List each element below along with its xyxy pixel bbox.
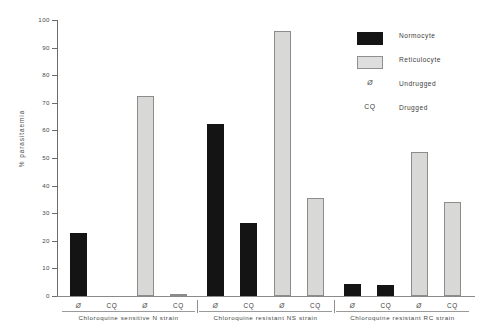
group-rule: [199, 311, 332, 312]
bar-reticulocyte-drugged: [444, 202, 461, 296]
y-tick-label: 90: [26, 45, 50, 51]
legend-swatch-normocyte: [357, 32, 383, 45]
y-tick-label: 100: [26, 17, 50, 23]
y-axis-title: % parasitaemia: [18, 94, 25, 184]
legend-item: Reticulocyte: [357, 54, 477, 78]
x-tick-label-drugged: CQ: [295, 302, 335, 309]
y-tick-label: 60: [26, 127, 50, 133]
x-axis-baseline: [57, 296, 475, 297]
group-label: Chloroquine sensitive N strain: [62, 314, 195, 321]
bar-normocyte-undrugged: [344, 284, 361, 296]
group-label: Chloroquine resistant RC strain: [336, 314, 469, 321]
bar-reticulocyte-drugged: [307, 198, 324, 296]
legend: NormocyteReticulocyteØUndruggedCQDrugged: [357, 30, 477, 126]
bar-normocyte-undrugged: [70, 233, 87, 296]
bar-reticulocyte-undrugged: [274, 31, 291, 296]
y-tick-label: 70: [26, 100, 50, 106]
y-tick-label: 50: [26, 155, 50, 161]
bar-normocyte-drugged: [240, 223, 257, 296]
bar-chart: % parasitaemia 0102030405060708090100 ØC…: [0, 0, 482, 331]
legend-swatch-reticulocyte: [357, 56, 383, 69]
group-separator: [197, 300, 198, 313]
bar-normocyte-undrugged: [207, 124, 224, 297]
group-rule: [336, 311, 469, 312]
group-separator: [334, 300, 335, 313]
x-tick-label-drugged: CQ: [158, 302, 198, 309]
y-tick-label: 20: [26, 238, 50, 244]
legend-label: Drugged: [399, 104, 428, 111]
legend-label: Undrugged: [399, 80, 436, 87]
y-tick-label: 30: [26, 210, 50, 216]
bar-reticulocyte-undrugged: [137, 96, 154, 296]
group-rule: [62, 311, 195, 312]
bar-reticulocyte-undrugged: [411, 152, 428, 296]
legend-label: Normocyte: [399, 32, 435, 39]
legend-symbol: CQ: [357, 103, 383, 110]
legend-item: ØUndrugged: [357, 78, 477, 102]
y-tick-label: 80: [26, 72, 50, 78]
group-label: Chloroquine resistant NS strain: [199, 314, 332, 321]
y-tick-label: 10: [26, 265, 50, 271]
x-tick-label-drugged: CQ: [432, 302, 472, 309]
legend-item: Normocyte: [357, 30, 477, 54]
legend-item: CQDrugged: [357, 102, 477, 126]
bar-reticulocyte-drugged: [170, 294, 187, 296]
legend-symbol: Ø: [357, 79, 383, 86]
y-tick-label: 0: [26, 293, 50, 299]
y-tick-label: 40: [26, 183, 50, 189]
legend-label: Reticulocyte: [399, 56, 441, 63]
bar-normocyte-drugged: [377, 285, 394, 296]
